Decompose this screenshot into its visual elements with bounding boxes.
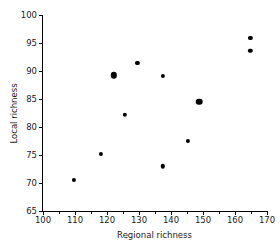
- x-axis-minor-tick: [123, 211, 124, 214]
- y-axis-tick: [39, 183, 43, 184]
- y-axis-tick: [39, 155, 43, 156]
- x-axis-minor-tick: [155, 211, 156, 214]
- y-axis-tick-label: 80: [26, 123, 37, 132]
- data-point: [135, 61, 139, 65]
- y-axis-tick: [39, 127, 43, 128]
- y-axis-tick: [39, 99, 43, 100]
- x-axis-tick-label: 150: [195, 216, 211, 225]
- data-point: [72, 178, 76, 182]
- x-axis-tick-label: 110: [67, 216, 83, 225]
- x-axis-title: Regional richness: [42, 231, 267, 240]
- y-axis-tick-label: 65: [26, 207, 37, 216]
- data-point: [122, 112, 126, 116]
- x-axis-minor-tick: [59, 211, 60, 214]
- y-axis-title: Local richness: [8, 15, 20, 212]
- x-axis-tick-label: 160: [227, 216, 243, 225]
- y-axis-tick-label: 75: [26, 151, 37, 160]
- data-point: [196, 99, 203, 106]
- x-axis-minor-tick: [91, 211, 92, 214]
- x-axis-tick-label: 140: [163, 216, 179, 225]
- x-axis-tick-label: 170: [259, 216, 275, 225]
- data-point: [111, 72, 117, 78]
- data-point: [248, 49, 252, 53]
- y-axis-tick-label: 100: [21, 11, 37, 20]
- x-axis-tick-label: 120: [99, 216, 115, 225]
- scatter-plot-figure: 6570758085909510010011012013014015016017…: [0, 0, 280, 249]
- y-axis-tick: [39, 15, 43, 16]
- data-point: [248, 36, 252, 40]
- x-axis-minor-tick: [219, 211, 220, 214]
- y-axis-tick-label: 95: [26, 39, 37, 48]
- y-axis-tick-label: 85: [26, 95, 37, 104]
- y-axis-tick-label: 90: [26, 67, 37, 76]
- plot-area: 6570758085909510010011012013014015016017…: [42, 15, 267, 212]
- y-axis-tick: [39, 43, 43, 44]
- data-point: [186, 139, 190, 143]
- x-axis-minor-tick: [187, 211, 188, 214]
- x-axis-tick-label: 130: [131, 216, 147, 225]
- x-axis-tick-label: 100: [35, 216, 51, 225]
- y-axis-tick: [39, 71, 43, 72]
- data-point: [99, 152, 103, 156]
- data-point: [161, 74, 165, 78]
- data-point: [160, 164, 164, 168]
- x-axis-minor-tick: [251, 211, 252, 214]
- y-axis-tick-label: 70: [26, 179, 37, 188]
